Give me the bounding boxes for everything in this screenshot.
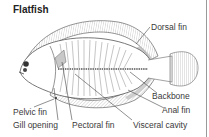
label-pectoral-fin: Pectoral fin (72, 121, 115, 130)
flatfish-diagram: Flatfish (0, 0, 209, 137)
eye-shape (23, 61, 29, 67)
tail-fin-shape (170, 52, 198, 86)
label-pelvic-fin: Pelvic fin (13, 108, 47, 117)
right-border-rule (206, 0, 207, 137)
label-backbone: Backbone (152, 92, 190, 101)
label-anal-fin: Anal fin (162, 106, 190, 115)
label-dorsal-fin: Dorsal fin (151, 23, 187, 32)
label-visceral-cavity: Visceral cavity (133, 121, 187, 130)
label-gill-opening: Gill opening (13, 121, 58, 130)
